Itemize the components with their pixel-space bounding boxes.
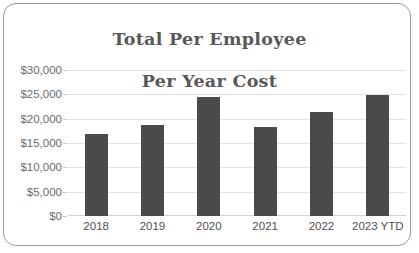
bar-slot: [181, 70, 237, 216]
x-axis: 201820192020202120222023 YTD: [68, 220, 406, 232]
bar-slot: [237, 70, 293, 216]
plot-area: [68, 70, 406, 216]
chart-screenshot: Total Per Employee Per Year Cost $0$5,00…: [0, 0, 419, 253]
x-tick-label: 2020: [181, 220, 237, 232]
bar[interactable]: [85, 134, 108, 216]
x-tick-label: 2019: [124, 220, 180, 232]
y-axis: $0$5,000$10,000$15,000$20,000$25,000$30,…: [0, 70, 62, 216]
y-tick-mark: [63, 167, 67, 168]
bar[interactable]: [197, 97, 220, 216]
y-tick-label: $25,000: [0, 89, 62, 100]
y-tick-mark: [63, 143, 67, 144]
y-tick-mark: [63, 119, 67, 120]
y-tick-mark: [63, 70, 67, 71]
bar[interactable]: [310, 112, 333, 216]
y-tick-label: $10,000: [0, 162, 62, 173]
y-tick-label: $15,000: [0, 138, 62, 149]
x-tick-label: 2023 YTD: [350, 220, 406, 232]
x-tick-label: 2018: [68, 220, 124, 232]
chart-title-line-1: Total Per Employee: [112, 29, 306, 49]
bar-slot: [68, 70, 124, 216]
y-tick-label: $0: [0, 211, 62, 222]
bar-slot: [124, 70, 180, 216]
x-tick-label: 2022: [293, 220, 349, 232]
y-tick-label: $20,000: [0, 113, 62, 124]
y-tick-mark: [63, 192, 67, 193]
y-tick-mark: [63, 94, 67, 95]
x-tick-label: 2021: [237, 220, 293, 232]
bar[interactable]: [141, 125, 164, 216]
bar-series: [68, 70, 406, 216]
bar-slot: [293, 70, 349, 216]
bar-slot: [350, 70, 406, 216]
y-tick-mark: [63, 216, 67, 217]
bar[interactable]: [366, 95, 389, 216]
bar[interactable]: [254, 127, 277, 216]
y-tick-label: $30,000: [0, 65, 62, 76]
y-tick-label: $5,000: [0, 186, 62, 197]
